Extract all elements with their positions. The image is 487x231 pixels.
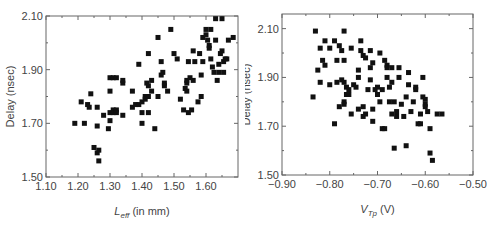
- data-point-marker: [428, 151, 433, 156]
- x-tick-label: −0.60: [411, 178, 439, 190]
- data-point-marker: [156, 94, 161, 99]
- data-point-marker: [385, 65, 390, 70]
- data-point-marker: [377, 51, 382, 56]
- data-point-marker: [146, 94, 151, 99]
- data-point-marker: [95, 124, 100, 129]
- data-point-marker: [392, 146, 397, 151]
- data-point-marker: [192, 59, 197, 64]
- data-point-marker: [204, 27, 209, 32]
- data-point-marker: [346, 87, 351, 92]
- data-point-marker: [327, 46, 332, 51]
- data-point-marker: [389, 112, 394, 117]
- data-point-marker: [159, 59, 164, 64]
- data-point-marker: [149, 78, 154, 83]
- scatter-chart-vtp: −0.90−0.80−0.70−0.60−0.501.501.701.902.1…: [245, 0, 487, 231]
- data-point-marker: [199, 73, 204, 78]
- scatter-chart-leff: 1.101.201.301.401.501.601.501.701.902.10…: [0, 0, 245, 231]
- data-point-marker: [120, 113, 125, 118]
- data-point-marker: [385, 75, 390, 80]
- data-point-marker: [196, 99, 201, 104]
- data-point-marker: [394, 114, 399, 119]
- data-point-marker: [146, 110, 151, 115]
- data-point-marker: [358, 38, 363, 43]
- data-point-marker: [315, 68, 320, 73]
- data-point-marker: [178, 97, 183, 102]
- data-point-marker: [361, 104, 366, 109]
- data-point-marker: [337, 43, 342, 48]
- data-point-marker: [168, 27, 173, 32]
- data-point-marker: [95, 105, 100, 110]
- data-point-marker: [408, 109, 413, 114]
- data-point-marker: [200, 59, 205, 64]
- data-point-marker: [172, 51, 177, 56]
- data-point-marker: [411, 99, 416, 104]
- data-point-marker: [425, 109, 430, 114]
- x-tick-label: −0.80: [316, 178, 344, 190]
- data-point-marker: [420, 75, 425, 80]
- data-point-marker: [120, 78, 125, 83]
- y-tick-label: 1.70: [22, 117, 43, 129]
- data-point-marker: [346, 92, 351, 97]
- data-point-marker: [322, 38, 327, 43]
- y-tick-label: 1.70: [258, 120, 279, 132]
- data-point-marker: [342, 29, 347, 34]
- y-tick-label: 1.90: [258, 71, 279, 83]
- data-point-marker: [368, 65, 373, 70]
- x-axis-title: Leff (in mm): [114, 205, 169, 220]
- data-point-marker: [311, 94, 316, 99]
- data-point-marker: [207, 46, 212, 51]
- data-point-marker: [204, 32, 209, 37]
- data-point-marker: [368, 77, 373, 82]
- data-point-marker: [389, 65, 394, 70]
- data-point-marker: [365, 87, 370, 92]
- data-point-marker: [140, 110, 145, 115]
- data-point-marker: [216, 62, 221, 67]
- y-tick-label: 2.10: [22, 10, 43, 22]
- x-tick-label: 1.60: [195, 180, 216, 192]
- data-point-marker: [210, 64, 215, 69]
- data-point-marker: [72, 121, 77, 126]
- data-point-marker: [349, 112, 354, 117]
- data-point-marker: [334, 80, 339, 85]
- data-point-marker: [370, 107, 375, 112]
- data-point-marker: [140, 121, 145, 126]
- data-point-marker: [401, 114, 406, 119]
- data-point-marker: [349, 46, 354, 51]
- data-point-marker: [212, 70, 217, 75]
- data-point-marker: [101, 113, 106, 118]
- data-point-marker: [342, 80, 347, 85]
- data-point-marker: [327, 82, 332, 87]
- data-point-marker: [224, 56, 229, 61]
- data-point-marker: [114, 75, 119, 80]
- data-point-marker: [136, 62, 141, 67]
- data-point-marker: [399, 102, 404, 107]
- x-tick-label: −0.50: [459, 178, 487, 190]
- data-point-marker: [175, 56, 180, 61]
- data-point-marker: [130, 89, 135, 94]
- data-point-marker: [191, 78, 196, 83]
- data-point-marker: [332, 121, 337, 126]
- scatter-plot-vtp-svg: −0.90−0.80−0.70−0.60−0.501.501.701.902.1…: [245, 0, 487, 231]
- y-tick-label: 1.50: [22, 171, 43, 183]
- data-point-marker: [184, 89, 189, 94]
- x-axis-title-unit: (V): [377, 203, 395, 215]
- scatter-plot-leff-svg: 1.101.201.301.401.501.601.501.701.902.10…: [0, 0, 245, 231]
- data-point-marker: [375, 85, 380, 90]
- data-points: [311, 29, 445, 163]
- data-point-marker: [334, 58, 339, 63]
- data-point-marker: [370, 119, 375, 124]
- data-point-marker: [404, 143, 409, 148]
- data-point-marker: [96, 148, 101, 153]
- data-point-marker: [231, 35, 236, 40]
- y-tick-label: 1.90: [22, 64, 43, 76]
- data-point-marker: [152, 126, 157, 131]
- data-point-marker: [313, 29, 318, 34]
- data-point-marker: [394, 109, 399, 114]
- data-point-marker: [162, 81, 167, 86]
- data-point-marker: [354, 85, 359, 90]
- data-point-marker: [356, 75, 361, 80]
- data-point-marker: [406, 70, 411, 75]
- data-point-marker: [382, 126, 387, 131]
- data-point-marker: [108, 118, 113, 123]
- data-point-marker: [342, 58, 347, 63]
